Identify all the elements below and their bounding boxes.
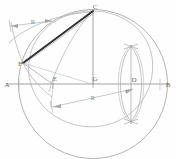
point-label-C: C [93, 3, 98, 11]
dimension-label-lower-R: R [91, 94, 96, 101]
chord-FG [23, 63, 92, 84]
dimension-label-upper-R: R [31, 18, 36, 25]
point-label-F: F [18, 60, 22, 68]
dimension-arrow-lower-left [53, 104, 61, 108]
inner-arc-circle [29, 11, 153, 127]
dimension-arrow-lower-right [125, 89, 133, 94]
arc-from-C-upper-left [9, 12, 93, 43]
diagram-canvas: A B C D E F G R R [0, 0, 176, 159]
construction-diagram: A B C D E F G R R [0, 0, 176, 159]
point-label-G: G [92, 75, 97, 83]
point-label-E: E [53, 75, 57, 83]
chord-FE [23, 63, 54, 85]
point-label-B: B [166, 81, 171, 89]
point-label-A: A [4, 81, 9, 89]
point-label-D: D [131, 76, 136, 84]
